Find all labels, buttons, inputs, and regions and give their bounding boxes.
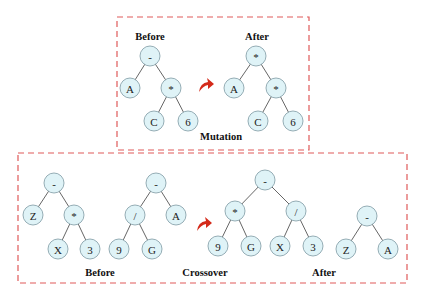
node-label: - bbox=[154, 178, 158, 190]
node-label: 9 bbox=[215, 241, 221, 253]
node-label: 9 bbox=[116, 244, 122, 256]
tree-node: * bbox=[246, 46, 266, 66]
tree-node: / bbox=[286, 201, 306, 221]
node-label: - bbox=[52, 178, 56, 190]
tree-node: - bbox=[140, 46, 160, 66]
tree-node: Z bbox=[336, 239, 356, 259]
mutation-after-tree: *A*C6 bbox=[224, 46, 303, 131]
node-label: A bbox=[172, 210, 180, 222]
tree-node: G bbox=[142, 239, 162, 259]
tree-node: 6 bbox=[283, 111, 303, 131]
curved-arrow-icon bbox=[197, 217, 212, 231]
tree-node: Z bbox=[23, 205, 43, 225]
tree-node: A bbox=[378, 239, 398, 259]
node-label: A bbox=[384, 244, 392, 256]
tree-node: A bbox=[166, 205, 186, 225]
genetic-programming-diagram: Before After Mutation -A*C6 *A*C6 Before… bbox=[0, 0, 423, 298]
node-label: Z bbox=[30, 210, 37, 222]
node-label: - bbox=[263, 175, 267, 187]
mutation-panel: Before After Mutation -A*C6 *A*C6 bbox=[117, 17, 309, 150]
node-label: A bbox=[230, 83, 238, 95]
tree-node: C bbox=[248, 111, 268, 131]
crossover-parent1-tree: -Z*X3 bbox=[23, 173, 100, 259]
node-label: X bbox=[54, 244, 62, 256]
node-label: C bbox=[150, 116, 157, 128]
tree-node: A bbox=[224, 78, 244, 98]
node-label: Z bbox=[343, 244, 350, 256]
tree-node: C bbox=[144, 111, 164, 131]
crossover-child2-tree: -ZA bbox=[336, 206, 398, 259]
tree-node: 9 bbox=[109, 239, 129, 259]
node-label: 3 bbox=[87, 244, 93, 256]
node-label: G bbox=[148, 244, 156, 256]
node-label: - bbox=[365, 211, 369, 223]
tree-node: / bbox=[125, 205, 145, 225]
crossover-caption: Crossover bbox=[182, 267, 228, 278]
tree-node: * bbox=[161, 78, 181, 98]
mutation-caption: Mutation bbox=[200, 131, 242, 142]
tree-node: X bbox=[270, 236, 290, 256]
crossover-before-label: Before bbox=[85, 267, 115, 278]
tree-node: A bbox=[120, 78, 140, 98]
curved-arrow-icon bbox=[199, 78, 214, 92]
node-label: * bbox=[273, 83, 279, 95]
mutation-after-label: After bbox=[245, 31, 269, 42]
tree-node: * bbox=[266, 78, 286, 98]
tree-node: G bbox=[241, 236, 261, 256]
tree-node: 9 bbox=[208, 236, 228, 256]
node-label: * bbox=[168, 83, 174, 95]
tree-node: - bbox=[255, 170, 275, 190]
node-label: * bbox=[253, 51, 259, 63]
node-label: 6 bbox=[290, 116, 296, 128]
tree-node: X bbox=[48, 239, 68, 259]
tree-node: 6 bbox=[178, 111, 198, 131]
tree-node: - bbox=[146, 173, 166, 193]
mutation-before-label: Before bbox=[135, 31, 165, 42]
node-label: C bbox=[254, 116, 261, 128]
node-label: - bbox=[148, 51, 152, 63]
tree-node: 3 bbox=[303, 236, 323, 256]
node-label: * bbox=[232, 206, 238, 218]
node-label: 3 bbox=[310, 241, 316, 253]
tree-node: - bbox=[44, 173, 64, 193]
tree-node: * bbox=[64, 205, 84, 225]
crossover-parent2-tree: -/A9G bbox=[109, 173, 186, 259]
tree-node: * bbox=[225, 201, 245, 221]
tree-node: - bbox=[357, 206, 377, 226]
node-label: A bbox=[126, 83, 134, 95]
tree-node: 3 bbox=[80, 239, 100, 259]
crossover-child1-tree: -*/9GX3 bbox=[208, 170, 323, 256]
node-label: 6 bbox=[185, 116, 191, 128]
mutation-before-tree: -A*C6 bbox=[120, 46, 198, 131]
node-label: G bbox=[247, 241, 255, 253]
crossover-panel: Before Crossover After -Z*X3 -/A9G -*/9G… bbox=[18, 153, 407, 283]
node-label: * bbox=[71, 210, 77, 222]
node-label: X bbox=[276, 241, 284, 253]
crossover-after-label: After bbox=[312, 267, 336, 278]
